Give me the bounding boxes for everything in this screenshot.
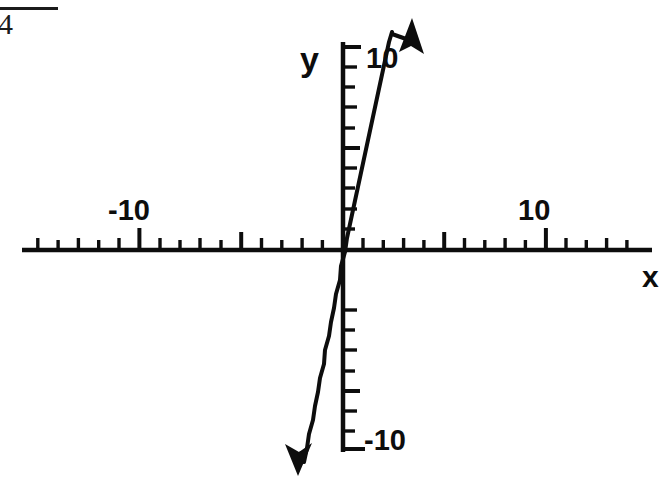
y-axis-tick-label-10: 10: [366, 44, 398, 73]
x-axis: [22, 228, 652, 250]
graph-figure: 4 y x 10 -10 -10 10: [0, 0, 670, 478]
y-axis-label: y: [300, 42, 319, 76]
x-axis-tick-label-10: 10: [518, 196, 550, 225]
coordinate-plane: [0, 0, 670, 478]
y-axis-tick-label-neg10: -10: [364, 426, 406, 455]
fraction-denominator: 4: [0, 9, 13, 39]
x-axis-label: x: [642, 262, 659, 292]
line-arrowhead-down: [285, 443, 312, 476]
x-axis-tick-label-neg10: -10: [108, 196, 150, 225]
cropped-fraction-fragment: 4: [0, 0, 62, 44]
